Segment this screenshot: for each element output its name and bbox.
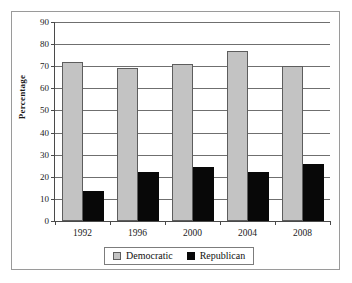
y-tick-label: 50 bbox=[23, 105, 49, 115]
bar-democratic-1996 bbox=[117, 68, 138, 221]
bar-democratic-2000 bbox=[172, 64, 193, 221]
x-tick-mark bbox=[110, 221, 111, 225]
legend-item-republican[interactable]: Republican bbox=[187, 250, 246, 261]
chart-legend: DemocraticRepublican bbox=[104, 247, 254, 265]
bar-group bbox=[110, 22, 165, 221]
chart-figure: Percentage 0102030405060708090 199219962… bbox=[0, 0, 352, 283]
legend-swatch-icon bbox=[113, 252, 121, 260]
bar-democratic-1992 bbox=[62, 62, 83, 221]
y-tick-label: 30 bbox=[23, 150, 49, 160]
y-tick-label: 90 bbox=[23, 17, 49, 27]
bar-democratic-2004 bbox=[227, 51, 248, 221]
x-tick-label-1992: 1992 bbox=[73, 228, 92, 238]
x-tick-mark bbox=[220, 221, 221, 225]
x-tick-label-1996: 1996 bbox=[128, 228, 147, 238]
x-tick-label-2004: 2004 bbox=[238, 228, 257, 238]
legend-label: Republican bbox=[200, 250, 246, 261]
plot-area: 0102030405060708090 19921996200020042008 bbox=[54, 22, 330, 222]
x-tick-label-2008: 2008 bbox=[293, 228, 312, 238]
x-tick-mark bbox=[55, 221, 56, 225]
bar-democratic-2008 bbox=[282, 66, 303, 221]
legend-swatch-icon bbox=[187, 252, 195, 260]
legend-item-democratic[interactable]: Democratic bbox=[113, 250, 173, 261]
bar-group bbox=[55, 22, 110, 221]
legend-label: Democratic bbox=[126, 250, 173, 261]
y-tick-label: 10 bbox=[23, 194, 49, 204]
x-tick-mark bbox=[165, 221, 166, 225]
y-tick-label: 40 bbox=[23, 128, 49, 138]
bar-group bbox=[220, 22, 275, 221]
bar-republican-2004 bbox=[248, 172, 269, 221]
y-tick-label: 60 bbox=[23, 83, 49, 93]
bar-group bbox=[165, 22, 220, 221]
x-tick-mark bbox=[275, 221, 276, 225]
bar-republican-1996 bbox=[138, 172, 159, 221]
y-tick-label: 80 bbox=[23, 39, 49, 49]
y-tick-label: 20 bbox=[23, 172, 49, 182]
x-tick-mark bbox=[330, 221, 331, 225]
bars-layer bbox=[55, 22, 330, 221]
bar-republican-2008 bbox=[303, 164, 324, 221]
bar-republican-1992 bbox=[83, 191, 104, 221]
y-tick-label: 70 bbox=[23, 61, 49, 71]
bar-group bbox=[275, 22, 330, 221]
y-tick-label: 0 bbox=[23, 216, 49, 226]
bar-republican-2000 bbox=[193, 167, 214, 221]
x-tick-label-2000: 2000 bbox=[183, 228, 202, 238]
